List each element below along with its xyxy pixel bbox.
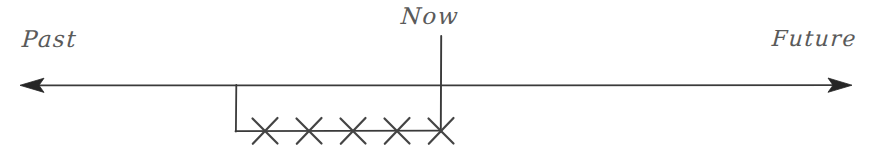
timeline-diagram: Past Now Future [0, 0, 874, 159]
now-label: Now [400, 3, 460, 29]
time-axis [20, 78, 852, 92]
future-label: Future [771, 26, 858, 51]
crossed-interval-bracket [236, 85, 442, 132]
past-label: Past [21, 26, 78, 52]
